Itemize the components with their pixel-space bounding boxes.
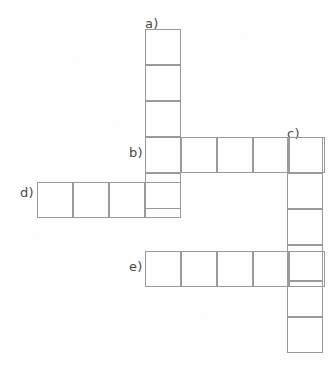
puzzle-cell-d-1[interactable] [37,182,73,218]
puzzle-cell-a-2[interactable] [145,65,181,101]
puzzle-cell-e-3[interactable] [217,251,253,287]
puzzle-cell-b-1[interactable] [145,137,181,173]
puzzle-cell-e-4[interactable] [253,251,289,287]
crossword-grid: a)b)c)d)e) [0,0,329,370]
puzzle-cell-e-5[interactable] [289,251,325,287]
puzzle-cell-c-2[interactable] [287,173,323,209]
puzzle-cell-b-4[interactable] [253,137,289,173]
puzzle-cell-e-2[interactable] [181,251,217,287]
puzzle-cell-d-4[interactable] [145,182,181,218]
puzzle-cell-a-3[interactable] [145,101,181,137]
puzzle-cell-d-2[interactable] [73,182,109,218]
puzzle-cell-c-6[interactable] [287,317,323,353]
puzzle-cell-a-1[interactable] [145,29,181,65]
entry-label-e: e) [129,260,143,273]
puzzle-cell-e-1[interactable] [145,251,181,287]
puzzle-page: a)b)c)d)e) [0,0,329,370]
puzzle-cell-b-3[interactable] [217,137,253,173]
entry-label-d: d) [20,186,34,199]
puzzle-cell-c-3[interactable] [287,209,323,245]
entry-label-b: b) [129,146,143,159]
puzzle-cell-b-2[interactable] [181,137,217,173]
puzzle-cell-d-3[interactable] [109,182,145,218]
puzzle-cell-c-1[interactable] [287,137,323,173]
